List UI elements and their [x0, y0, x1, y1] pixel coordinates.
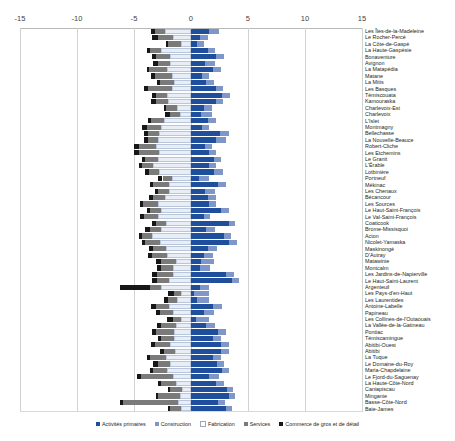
- bar-segment: [158, 189, 169, 194]
- bar-segment: [166, 41, 168, 46]
- bar-segment: [142, 157, 145, 162]
- bar-segment: [191, 400, 218, 405]
- bar-segment: [191, 54, 216, 59]
- bar-segment: [167, 93, 191, 98]
- bar-segment: [161, 125, 191, 130]
- category-label: Baie-James: [365, 406, 393, 412]
- bar-segment: [191, 361, 217, 366]
- bar-segment: [191, 342, 221, 347]
- bar-segment: [191, 368, 222, 373]
- bar-segment: [218, 182, 226, 187]
- legend-label: Fabrication: [208, 421, 235, 427]
- bar-segment: [221, 208, 229, 213]
- bar-segment: [142, 240, 145, 245]
- bar-segment: [167, 368, 191, 373]
- bar-segment: [147, 48, 150, 53]
- bar-segment: [153, 195, 164, 200]
- bar-segment: [156, 310, 161, 315]
- bar-segment: [229, 393, 236, 398]
- bar-segment: [156, 93, 167, 98]
- legend-label: Activités primaires: [102, 421, 146, 427]
- bar-segment: [191, 201, 209, 206]
- bar-segment: [165, 112, 171, 117]
- bar-segment: [170, 112, 179, 117]
- bar-segment: [191, 381, 216, 386]
- bar-segment: [156, 99, 169, 104]
- bar-segment: [158, 176, 163, 181]
- bar-segment: [156, 54, 171, 59]
- bar-segment: [191, 336, 213, 341]
- legend-item[interactable]: Activités primaires: [96, 421, 146, 427]
- legend-label: Construction: [161, 421, 191, 427]
- legend-item[interactable]: Services: [244, 421, 271, 427]
- bar-segment: [173, 317, 181, 322]
- bar-segment: [173, 35, 191, 40]
- bar-segment: [159, 131, 191, 136]
- bar-segment: [205, 61, 215, 66]
- x-axis-tick-labels: -15-10-5051015: [0, 14, 455, 28]
- bar-segment: [164, 105, 166, 110]
- bar-segment: [216, 99, 223, 104]
- bar-segment: [156, 304, 170, 309]
- bar-segment: [208, 246, 217, 251]
- bar-segment: [191, 304, 213, 309]
- bar-segment: [174, 291, 181, 296]
- bar-segment: [201, 259, 214, 264]
- bar-segment: [213, 67, 221, 72]
- bar-segment: [157, 272, 173, 277]
- bar-segment: [181, 317, 191, 322]
- bar-segment: [206, 80, 214, 85]
- bar-segment: [158, 137, 191, 142]
- bar-segment: [191, 387, 227, 392]
- legend-item[interactable]: Commerce de gros et de détail: [279, 421, 359, 427]
- bar-segment: [204, 253, 213, 258]
- bar-segment: [139, 144, 156, 149]
- bar-segment: [209, 29, 219, 34]
- bar-segment: [191, 329, 218, 334]
- bar-segment: [158, 61, 171, 66]
- bar-segment: [151, 304, 156, 309]
- bar-segment: [134, 144, 139, 149]
- bar-segment: [206, 227, 215, 232]
- bar-segment: [155, 342, 171, 347]
- legend-item[interactable]: Construction: [155, 421, 191, 427]
- bar-segment: [191, 176, 199, 181]
- bar-segment: [142, 163, 153, 168]
- bar-segment: [191, 253, 204, 258]
- bar-segment: [166, 355, 191, 360]
- bar-segment: [144, 86, 147, 91]
- bar-segment: [191, 67, 213, 72]
- bar-segment: [167, 253, 191, 258]
- x-tick-10: 10: [301, 14, 310, 23]
- bar-segment: [161, 208, 191, 213]
- bar-segment: [191, 35, 200, 40]
- bar-segment: [204, 105, 212, 110]
- bar-segment: [141, 374, 173, 379]
- gridline-15: [362, 28, 363, 412]
- bar-segment: [191, 246, 208, 251]
- bar-segment: [205, 189, 215, 194]
- bar-segment: [169, 304, 191, 309]
- bar-segment: [156, 144, 191, 149]
- legend-item[interactable]: Fabrication: [200, 421, 235, 427]
- bar-segment: [160, 349, 163, 354]
- bar-segment: [160, 310, 173, 315]
- bar-segment: [157, 278, 170, 283]
- bar-segment: [177, 105, 191, 110]
- bar-segment: [168, 41, 181, 46]
- bar-segment: [144, 137, 147, 142]
- bar-segment: [151, 29, 154, 34]
- bar-segment: [166, 221, 191, 226]
- bar-segment: [180, 393, 191, 398]
- bar-segment: [200, 35, 208, 40]
- x-tick-0: 0: [189, 14, 193, 23]
- bar-segment: [191, 93, 222, 98]
- bar-segment: [191, 323, 206, 328]
- bar-segment: [157, 80, 160, 85]
- bar-segment: [157, 265, 162, 270]
- bar-segment: [151, 99, 156, 104]
- bar-segment: [191, 233, 224, 238]
- bar-segment: [145, 240, 160, 245]
- bar-segment: [191, 227, 206, 232]
- axis-bottom-line: [20, 411, 362, 412]
